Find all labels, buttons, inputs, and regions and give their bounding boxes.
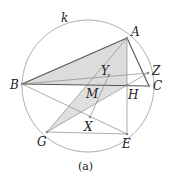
label-m: M — [85, 87, 99, 101]
figure-caption: (a) — [78, 160, 93, 173]
label-z: Z — [151, 64, 161, 78]
label-a: A — [130, 25, 140, 39]
label-c: C — [153, 79, 162, 93]
label-y: Y — [101, 64, 110, 78]
label-b: B — [9, 78, 19, 92]
geometry-diagram: k A B C Z Y M H X G E (a) — [0, 0, 173, 178]
label-h: H — [127, 88, 139, 102]
label-k: k — [61, 11, 68, 25]
label-e: E — [121, 137, 131, 151]
label-g: G — [37, 135, 47, 149]
label-x: X — [83, 120, 93, 134]
